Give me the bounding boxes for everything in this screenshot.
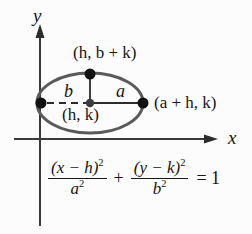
ellipse-figure: y x (h, b + k) (a + h, k) (h, k) b a (x …	[0, 0, 252, 234]
ellipse-equation: (x − h)2 a2 + (y − k)2 b2 = 1	[47, 159, 220, 198]
figure-canvas	[0, 0, 252, 234]
second-numerator-exponent: 2	[180, 157, 185, 168]
x-axis-arrowhead	[204, 135, 218, 144]
x-axis-label: x	[228, 128, 236, 147]
top-vertex-label: (h, b + k)	[73, 44, 136, 61]
first-fraction: (x − h)2 a2	[48, 159, 107, 198]
center-label: (h, k)	[62, 106, 99, 123]
first-denominator-exponent: 2	[79, 179, 84, 190]
second-denominator: b2	[150, 179, 170, 198]
y-axis-label: y	[33, 6, 41, 25]
first-numerator-text: (x − h)	[51, 158, 98, 177]
left-vertex-dot	[36, 98, 47, 109]
equation-right-hand-side: = 1	[189, 168, 220, 189]
right-vertex-label: (a + h, k)	[154, 94, 216, 111]
second-denominator-text: b	[153, 179, 162, 198]
second-denominator-exponent: 2	[161, 179, 166, 190]
second-numerator: (y − k)2	[131, 159, 189, 178]
first-numerator-exponent: 2	[98, 157, 103, 168]
semi-major-length-label: a	[116, 82, 125, 100]
y-axis-arrowhead	[36, 24, 45, 38]
second-fraction: (y − k)2 b2	[131, 159, 189, 198]
right-vertex-dot	[138, 98, 149, 109]
top-vertex-dot	[85, 69, 96, 80]
first-numerator: (x − h)2	[48, 159, 107, 178]
first-denominator-text: a	[70, 179, 79, 198]
semi-minor-length-label: b	[64, 82, 73, 100]
first-denominator: a2	[67, 179, 87, 198]
second-numerator-text: (y − k)	[134, 158, 180, 177]
plus-operator: +	[108, 168, 130, 189]
